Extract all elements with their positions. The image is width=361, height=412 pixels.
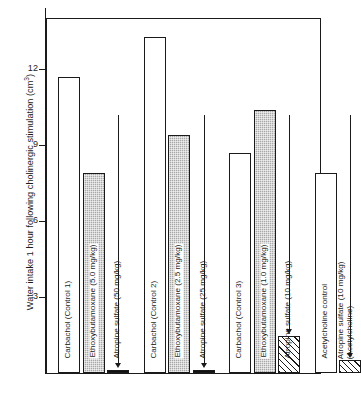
bar-label-line1-8: Ethoxybutamoxane (1.0 mg/kg) <box>259 245 268 358</box>
bar-label-8: Ethoxybutamoxane (1.0 mg/kg) <box>260 244 269 359</box>
arrow-leader-line-11 <box>350 115 351 353</box>
arrow-head-11 <box>347 353 353 358</box>
bar-11 <box>339 360 361 373</box>
bar-label-1: Carbachol (Control 1) <box>65 281 74 359</box>
y-axis-tick-6 <box>39 221 46 222</box>
bar-label-2: Ethoxybutamoxane (5.0 mg/kg) <box>89 244 98 359</box>
bar-label-line1-10: Acetylcholine control <box>320 284 329 359</box>
bar-6 <box>193 370 215 373</box>
bar-label-line1-4: Carbachol (Control 2) <box>149 281 158 359</box>
bar-label-10: Acetylcholine control <box>321 284 330 359</box>
bar-label-line1-2: Ethoxybutamoxane (5.0 mg/kg) <box>88 245 97 358</box>
bar-label-11: Atropine sulfate (10 mg/kg)(Acetylcholin… <box>337 261 354 359</box>
bar-label-line1-1: Carbachol (Control 1) <box>64 281 73 359</box>
bar-label-line1-5: Ethoxybutamoxane (2.5 mg/kg) <box>174 245 183 358</box>
arrow-leader-line-3 <box>118 115 119 363</box>
y-axis-title-close: ) <box>25 74 35 77</box>
y-axis-title: Water intake 1 hour following cholinergi… <box>23 27 35 357</box>
arrow-head-6 <box>201 363 207 368</box>
bar-label-line1-11: Atropine sulfate (10 mg/kg) <box>336 261 345 359</box>
y-axis-title-superscript: 3 <box>23 77 30 81</box>
arrow-head-3 <box>115 363 121 368</box>
y-axis-tick-9 <box>39 145 46 146</box>
arrow-leader-line-9 <box>289 115 290 329</box>
y-axis-line <box>45 8 46 374</box>
bar-label-5: Ethoxybutamoxane (2.5 mg/kg) <box>175 244 184 359</box>
bar-series: Carbachol (Control 1)Ethoxybutamoxane (5… <box>47 19 320 373</box>
arrow-leader-line-6 <box>204 115 205 363</box>
bar-label-7: Carbachol (Control 3) <box>236 281 245 359</box>
y-axis-title-text: Water intake 1 hour following cholinergi… <box>25 81 35 310</box>
y-axis-tick-3 <box>39 297 46 298</box>
arrow-head-9 <box>286 329 292 334</box>
bar-3 <box>107 370 129 373</box>
bar-label-line1-7: Carbachol (Control 3) <box>235 281 244 359</box>
y-axis-tick-12 <box>39 69 46 70</box>
bar-label-4: Carbachol (Control 2) <box>150 281 159 359</box>
